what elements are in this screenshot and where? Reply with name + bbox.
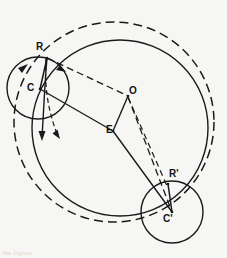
arc-arrow-c-icon xyxy=(18,64,28,73)
segment-O-Cprime-dashed xyxy=(128,97,172,212)
point-Rp-dot xyxy=(167,183,170,186)
outer-dashed-circle xyxy=(14,22,214,222)
large-solid-circle xyxy=(32,40,208,216)
segment-R-O-dashed xyxy=(47,58,128,96)
segment-E-Cprime xyxy=(113,131,172,212)
figure-page: R C O E R' C' the figure xyxy=(0,0,227,258)
point-R-dot xyxy=(46,57,49,60)
label-point-C-prime: C' xyxy=(163,214,173,224)
label-point-C: C xyxy=(27,83,34,93)
segment-C-E xyxy=(40,89,113,131)
label-point-R-prime: R' xyxy=(169,169,179,179)
label-point-E: E xyxy=(106,125,113,135)
down-arrow-solid-icon xyxy=(39,131,46,141)
point-C-dot xyxy=(39,88,42,91)
geometric-diagram xyxy=(0,0,227,258)
label-point-R: R xyxy=(36,42,43,52)
segment-E-O xyxy=(113,96,128,131)
cut-off-page-text: the figure xyxy=(2,249,225,257)
trace-dashed-descending xyxy=(46,58,59,136)
label-point-O: O xyxy=(129,86,137,96)
down-arrow-dashed-icon xyxy=(53,130,61,140)
segment-O-Rprime-dashed xyxy=(128,97,167,186)
